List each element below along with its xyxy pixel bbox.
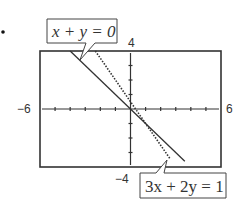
- ymax-tick-label: 4: [128, 36, 135, 50]
- line-3x-plus-2y-eq-1: [95, 51, 169, 158]
- ymin-tick-label: −4: [115, 172, 129, 186]
- bullet-marker: [1, 30, 5, 34]
- xmax-tick-label: 6: [226, 102, 233, 116]
- line-x-plus-y-eq-0: [70, 51, 185, 161]
- callout-x-plus-y-eq-0: x + y = 0: [47, 19, 117, 60]
- equation-label-1: x + y = 0: [51, 22, 116, 41]
- xmin-tick-label: −6: [17, 102, 31, 116]
- equation-label-2: 3x + 2y = 1: [145, 177, 224, 196]
- callout-3x-plus-2y-eq-1: 3x + 2y = 1: [140, 160, 226, 198]
- graphing-calculator-figure: 4 −4 −6 6 x + y = 0 3x + 2y = 1: [0, 0, 244, 200]
